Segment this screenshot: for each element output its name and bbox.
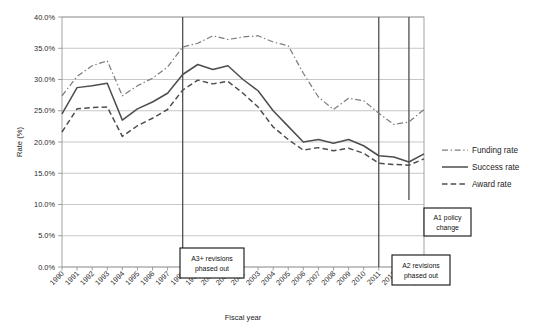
annotation-label-line1-a2-revisions: A2 revisions <box>402 262 440 269</box>
x-axis-tick-label: 1992 <box>78 269 96 287</box>
x-axis-tick-label: 2004 <box>259 269 277 287</box>
legend-label-series-line-success-rate[interactable]: Success rate <box>472 163 520 172</box>
x-axis-tick-label: 2005 <box>274 269 292 287</box>
y-axis-tick-label: 5.0% <box>38 231 55 240</box>
legend-label-series-line-award-rate[interactable]: Award rate <box>472 180 512 189</box>
annotation-label-line2-a3-revisions: phased out <box>195 265 229 273</box>
x-axis-tick-label: 2003 <box>244 269 262 287</box>
y-axis-tick-label: 40.0% <box>34 13 55 22</box>
x-axis-tick-label: 1994 <box>108 269 126 287</box>
x-axis-tick-label: 1996 <box>138 269 156 287</box>
series-line-award-rate <box>62 80 424 165</box>
annotation-box-a1-policy <box>424 208 471 236</box>
x-axis-tick-label: 1995 <box>123 269 141 287</box>
x-axis-tick-label: 2007 <box>304 269 322 287</box>
y-axis-tick-label: 25.0% <box>34 106 55 115</box>
annotation-box-a3-revisions <box>180 248 244 278</box>
annotation-a3-revisions: A3+ revisionsphased out <box>180 248 244 278</box>
y-axis-tick-label: 15.0% <box>34 169 55 178</box>
x-axis-tick-label: 1991 <box>63 269 81 287</box>
x-axis-tick-label: 2006 <box>289 269 307 287</box>
x-axis-tick-label: 2011 <box>365 269 383 287</box>
x-axis-tick-label: 2010 <box>350 269 368 287</box>
x-axis-tick-label: 1997 <box>153 269 171 287</box>
y-axis-tick-label: 0.0% <box>38 263 55 272</box>
x-axis-title: Fiscal year <box>225 313 262 322</box>
annotation-a2-revisions: A2 revisionsphased out <box>392 255 450 285</box>
annotation-label-line1-a1-policy: A1 policy <box>434 214 463 222</box>
chart-container: 0.0%5.0%10.0%15.0%20.0%25.0%30.0%35.0%40… <box>0 0 546 332</box>
x-axis-tick-label: 2008 <box>319 269 337 287</box>
data-series-group <box>62 36 424 165</box>
gridlines <box>62 17 424 267</box>
y-axis-tick-label: 35.0% <box>34 44 55 53</box>
annotation-box-a2-revisions <box>392 255 450 285</box>
y-axis-tick-label: 30.0% <box>34 75 55 84</box>
y-axis-tick-label: 10.0% <box>34 200 55 209</box>
legend-label-series-line-funding-rate[interactable]: Funding rate <box>472 146 518 155</box>
x-axis-tick-label: 2009 <box>334 269 352 287</box>
annotation-label-line2-a1-policy: change <box>436 224 459 232</box>
annotation-label-line2-a2-revisions: phased out <box>404 272 438 280</box>
line-chart: 0.0%5.0%10.0%15.0%20.0%25.0%30.0%35.0%40… <box>0 0 546 332</box>
y-axis-title: Rate (%) <box>15 127 24 157</box>
y-axis: 0.0%5.0%10.0%15.0%20.0%25.0%30.0%35.0%40… <box>15 13 62 272</box>
annotation-a1-policy: A1 policychange <box>424 208 471 236</box>
legend: Funding rateSuccess rateAward rate <box>442 146 520 189</box>
x-axis-tick-label: 1993 <box>93 269 111 287</box>
annotation-label-line1-a3-revisions: A3+ revisions <box>191 255 233 262</box>
x-axis-tick-label: 1990 <box>48 269 66 287</box>
y-axis-tick-label: 20.0% <box>34 138 55 147</box>
